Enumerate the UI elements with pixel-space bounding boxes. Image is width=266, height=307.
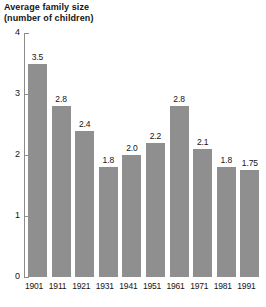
bar-value-label: 1.8 xyxy=(221,155,233,165)
bar-chart: Average family size (number of children)… xyxy=(0,0,266,307)
bar-value-label: 2.4 xyxy=(79,119,91,129)
bar-value-label: 1.8 xyxy=(103,155,115,165)
bar[interactable] xyxy=(28,64,47,278)
x-axis-labels: 1901191119211931194119511961197119811991 xyxy=(28,281,264,301)
x-axis-label: 1961 xyxy=(163,281,189,291)
x-axis-label: 1911 xyxy=(45,281,71,291)
bar-slot: 3.5 xyxy=(28,33,47,277)
bar-slot: 1.75 xyxy=(240,33,259,277)
bar[interactable] xyxy=(240,170,259,277)
x-axis-label: 1901 xyxy=(21,281,47,291)
bar-slot: 2.8 xyxy=(170,33,189,277)
x-axis-label: 1921 xyxy=(68,281,94,291)
bars-container: 3.52.82.41.82.02.22.82.11.81.75 xyxy=(28,33,264,277)
bar-value-label: 1.75 xyxy=(242,158,258,168)
y-tick-label: 1 xyxy=(0,210,20,220)
bar-value-label: 2.8 xyxy=(173,94,185,104)
y-tick-label: 3 xyxy=(0,88,20,98)
x-axis-label: 1981 xyxy=(210,281,236,291)
x-axis-label: 1991 xyxy=(233,281,259,291)
x-axis-label: 1941 xyxy=(115,281,141,291)
bar[interactable] xyxy=(217,167,236,277)
y-tick-label: 4 xyxy=(0,27,20,37)
bar-value-label: 2.0 xyxy=(126,143,138,153)
x-axis-label: 1931 xyxy=(92,281,118,291)
x-axis-label: 1951 xyxy=(139,281,165,291)
plot-area: 01234 3.52.82.41.82.02.22.82.11.81.75 19… xyxy=(0,0,266,307)
bar-slot: 2.4 xyxy=(75,33,94,277)
bar-slot: 2.2 xyxy=(146,33,165,277)
bar-slot: 2.8 xyxy=(52,33,71,277)
bar[interactable] xyxy=(75,131,94,277)
bar-value-label: 3.5 xyxy=(32,52,44,62)
y-tick-mark xyxy=(24,277,29,278)
bar[interactable] xyxy=(193,149,212,277)
y-tick-label: 2 xyxy=(0,149,20,159)
x-axis-label: 1971 xyxy=(186,281,212,291)
bar-slot: 2.0 xyxy=(122,33,141,277)
bar-slot: 1.8 xyxy=(217,33,236,277)
bar[interactable] xyxy=(52,106,71,277)
bar-value-label: 2.8 xyxy=(55,94,67,104)
bar[interactable] xyxy=(122,155,141,277)
bar-slot: 2.1 xyxy=(193,33,212,277)
bar-value-label: 2.1 xyxy=(197,137,209,147)
bar[interactable] xyxy=(99,167,118,277)
bar[interactable] xyxy=(146,143,165,277)
y-tick-label: 0 xyxy=(0,271,20,281)
bar-slot: 1.8 xyxy=(99,33,118,277)
bar-value-label: 2.2 xyxy=(150,131,162,141)
bar[interactable] xyxy=(170,106,189,277)
